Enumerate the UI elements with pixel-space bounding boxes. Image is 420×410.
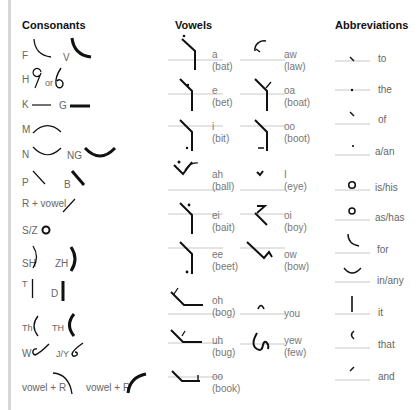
vowel-aw-example: (law)	[284, 60, 306, 73]
glyph-b-icon	[71, 170, 85, 186]
vowel-ei-example: (bait)	[212, 221, 235, 234]
glyph-vowel-r-heavy-icon	[126, 372, 148, 394]
label-v: V	[63, 52, 70, 64]
glyph-vowel-r-light-icon	[52, 371, 74, 395]
label-m: M	[22, 124, 30, 136]
glyph-n-icon	[32, 146, 62, 158]
abbr-for-icon	[335, 232, 371, 254]
abbr-it-icon	[335, 296, 371, 316]
glyph-m-icon	[32, 123, 62, 135]
label-k: K	[22, 99, 29, 111]
label-b: B	[64, 179, 71, 191]
glyph-sz-icon	[41, 225, 51, 235]
abbr-a-an-icon	[335, 143, 371, 157]
vowel-yew-example: (few)	[284, 346, 306, 359]
abbr-a-an-label: a/an	[375, 146, 394, 158]
abbr-to-label: to	[378, 53, 386, 65]
vowel-ee-example: (beet)	[212, 260, 238, 273]
glyph-h-alt-icon	[53, 67, 65, 91]
vowel-oi-example: (boy)	[284, 221, 307, 234]
glyph-v-icon	[70, 37, 92, 59]
abbreviations-heading: Abbreviations	[335, 19, 408, 31]
abbr-that-icon	[335, 330, 371, 350]
vowels-heading: Vowels	[175, 19, 212, 31]
vowel-i-example: (bit)	[212, 132, 229, 145]
label-f: F	[22, 50, 28, 62]
vowel-a-example: (bat)	[212, 60, 233, 73]
glyph-th-voiced-icon	[66, 313, 75, 337]
abbr-to-icon	[335, 52, 371, 64]
label-or: or	[45, 77, 53, 89]
glyph-h-icon	[32, 66, 44, 90]
glyph-th-icon	[31, 315, 39, 337]
label-w: W	[22, 348, 31, 360]
glyph-g-icon	[70, 104, 91, 108]
glyph-r-vowel-icon	[62, 198, 76, 213]
label-zh: ZH	[55, 258, 68, 270]
label-t: T	[22, 278, 28, 290]
glyph-f-icon	[32, 38, 52, 60]
vowel-you-sound: you	[284, 307, 300, 320]
glyph-w-icon	[32, 343, 50, 357]
vowel-oa-example: (boat)	[284, 96, 310, 109]
vowel-oo-boot-example: (boot)	[284, 132, 310, 145]
abbr-that-label: that	[378, 339, 395, 351]
abbr-in-any-icon	[335, 264, 371, 284]
left-border	[8, 0, 11, 410]
vowel-uh-example: (bug)	[212, 346, 235, 359]
abbr-of-label: of	[378, 114, 386, 126]
abbr-it-label: it	[378, 307, 383, 319]
label-jy: J/Y	[56, 348, 69, 360]
glyph-t-icon	[31, 279, 34, 298]
vowel-ow-example: (bow)	[284, 260, 309, 273]
abbr-as-has-icon	[335, 207, 371, 221]
vowel-e-example: (bet)	[212, 96, 233, 109]
abbr-in-any-label: in/any	[377, 275, 404, 287]
label-sz: S/Z	[22, 225, 38, 237]
label-vowel-r-2: vowel + R	[86, 382, 130, 394]
label-g: G	[59, 100, 67, 112]
abbr-and-icon	[335, 362, 371, 382]
vowel-oo-book-example: (book)	[212, 382, 240, 395]
glyph-jy-icon	[70, 342, 84, 358]
abbr-the-label: the	[378, 84, 392, 96]
glyph-ng-icon	[84, 146, 116, 159]
glyph-d-icon	[61, 281, 65, 301]
glyph-p-icon	[32, 170, 46, 185]
abbr-is-his-icon	[335, 180, 371, 192]
label-ng: NG	[67, 150, 82, 162]
glyph-k-icon	[32, 104, 52, 107]
consonants-heading: Consonants	[22, 19, 86, 31]
label-h: H	[22, 74, 29, 86]
abbr-the-icon	[335, 86, 371, 94]
abbr-of-icon	[335, 110, 371, 126]
label-r-vowel: R + vowel	[22, 198, 66, 210]
label-n: N	[22, 149, 29, 161]
vowel-ah-example: (ball)	[212, 180, 234, 193]
abbr-for-label: for	[377, 244, 389, 256]
abbr-as-has-label: as/has	[375, 212, 404, 224]
glyph-zh-icon	[70, 246, 79, 272]
glyph-sh-icon	[32, 245, 40, 269]
label-p: P	[22, 177, 29, 189]
vowel-eye-example: (eye)	[284, 180, 307, 193]
abbr-is-his-label: is/his	[375, 182, 398, 194]
label-th-voiced: TH	[52, 322, 64, 334]
label-d: D	[51, 288, 58, 300]
vowel-oh-example: (bog)	[212, 306, 235, 319]
abbr-and-label: and	[378, 371, 395, 383]
